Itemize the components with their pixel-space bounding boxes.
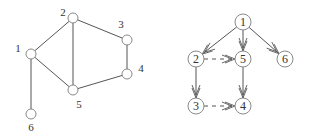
arrow-2-3 [192, 67, 200, 98]
node-3: 3 [188, 98, 204, 114]
edge-1-5 [31, 54, 73, 90]
arrow-shaft [249, 27, 279, 53]
node-5: 5 [235, 51, 251, 67]
node-label: 4 [138, 62, 144, 74]
node-circle [122, 69, 132, 79]
node-2: 2 [188, 51, 204, 67]
node-4: 4 [235, 98, 251, 114]
node-circle [68, 85, 78, 95]
node-label: 4 [240, 99, 246, 113]
node-circle [122, 35, 132, 45]
node-label: 5 [240, 52, 246, 66]
graph-diagram-canvas: 123456 125634 [0, 0, 309, 138]
arrow-1-5 [239, 30, 247, 51]
undirected-nodes: 123456 [15, 6, 144, 133]
node-6: 6 [26, 109, 36, 133]
node-label: 3 [118, 18, 124, 30]
undirected-graph: 123456 [15, 6, 144, 133]
directed-nodes: 125634 [188, 14, 293, 114]
node-circle [26, 109, 36, 119]
directed-graph: 125634 [188, 14, 293, 114]
node-5: 5 [68, 85, 82, 110]
node-circle [26, 49, 36, 59]
node-3: 3 [118, 18, 132, 45]
node-label: 2 [193, 52, 199, 66]
node-label: 3 [193, 99, 199, 113]
arrow-1-2 [202, 27, 236, 54]
node-label: 5 [76, 98, 82, 110]
node-circle [68, 13, 78, 23]
node-label: 1 [240, 15, 246, 29]
arrow-3-4 [204, 102, 235, 110]
node-4: 4 [122, 62, 144, 79]
directed-edges [192, 27, 279, 110]
arrow-5-4 [239, 67, 247, 98]
node-1: 1 [15, 42, 36, 59]
edge-1-2 [31, 18, 73, 54]
arrow-1-6 [249, 27, 279, 53]
arrow-shaft [202, 27, 236, 54]
node-1: 1 [235, 14, 251, 30]
arrow-2-5 [204, 55, 235, 63]
node-label: 1 [15, 42, 21, 54]
node-label: 6 [282, 52, 288, 66]
edge-4-5 [73, 74, 127, 90]
node-label: 6 [28, 121, 34, 133]
node-2: 2 [60, 6, 78, 23]
node-6: 6 [277, 51, 293, 67]
node-label: 2 [60, 6, 66, 18]
